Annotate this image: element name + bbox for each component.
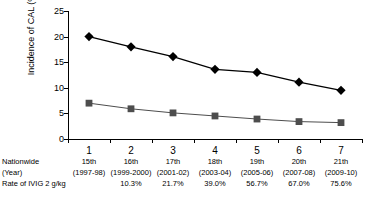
- annotation-cell-years: (2003-04): [199, 168, 232, 177]
- series-layer: [68, 11, 362, 139]
- annotation-row-label: Nationwide: [2, 157, 39, 166]
- data-point-diamond: [84, 32, 93, 41]
- annotation-cell-survey: 18th: [208, 157, 223, 166]
- y-tick-label: 0: [59, 134, 64, 144]
- annotation-cell-years: (2005-06): [241, 168, 274, 177]
- x-tick-mark: [68, 139, 69, 143]
- annotation-cell-ivig_rate: 39.0%: [204, 179, 225, 188]
- x-tick-mark: [194, 139, 195, 143]
- y-tick-label: 10: [54, 83, 64, 93]
- data-point-diamond: [126, 42, 135, 51]
- annotation-cell-survey: 19th: [250, 157, 265, 166]
- x-tick-mark: [362, 139, 363, 143]
- annotation-cell-years: (2001-02): [157, 168, 190, 177]
- data-point-diamond: [294, 78, 303, 87]
- annotation-cell-ivig_rate: 75.6%: [330, 179, 351, 188]
- x-tick-mark: [278, 139, 279, 143]
- data-point-square: [128, 105, 135, 112]
- data-point-square: [212, 113, 219, 120]
- x-tick-mark: [236, 139, 237, 143]
- annotation-cell-years: (1999-2000): [111, 168, 152, 177]
- y-tick-label: 15: [54, 57, 64, 67]
- data-point-square: [338, 119, 345, 126]
- annotation-cell-years: (2009-10): [325, 168, 358, 177]
- annotation-cell-survey: 16th: [124, 157, 139, 166]
- annotation-cell-survey: 21th: [334, 157, 349, 166]
- x-tick-mark: [110, 139, 111, 143]
- data-point-square: [170, 109, 177, 116]
- data-point-diamond: [336, 86, 345, 95]
- annotation-cell-survey: 17th: [166, 157, 181, 166]
- series-diamond: [84, 32, 345, 95]
- y-axis-title: Incidence of CAL (%): [26, 0, 36, 98]
- data-point-square: [296, 118, 303, 125]
- x-tick-mark: [152, 139, 153, 143]
- data-point-square: [254, 116, 261, 123]
- y-tick-label: 20: [54, 32, 64, 42]
- y-tick-label: 25: [54, 6, 64, 16]
- annotation-table: Nationwide(Year)Rate of IVIG 2 g/kg15th1…: [0, 155, 372, 199]
- data-point-diamond: [252, 68, 261, 77]
- x-axis-line: [68, 139, 362, 140]
- annotation-cell-survey: 20th: [292, 157, 307, 166]
- data-point-diamond: [168, 52, 177, 61]
- annotation-row-label: (Year): [2, 168, 22, 177]
- annotation-cell-years: (1997-98): [73, 168, 106, 177]
- annotation-cell-ivig_rate: 10.3%: [120, 179, 141, 188]
- annotation-cell-ivig_rate: 21.7%: [162, 179, 183, 188]
- annotation-cell-ivig_rate: 67.0%: [288, 179, 309, 188]
- data-point-square: [86, 100, 93, 107]
- annotation-cell-survey: 15th: [82, 157, 97, 166]
- y-tick-label: 5: [59, 108, 64, 118]
- annotation-cell-years: (2007-08): [283, 168, 316, 177]
- annotation-cell-ivig_rate: 56.7%: [246, 179, 267, 188]
- x-tick-mark: [320, 139, 321, 143]
- annotation-row-label: Rate of IVIG 2 g/kg: [2, 179, 66, 188]
- data-point-diamond: [210, 65, 219, 74]
- plot-area: 0510152025 1234567: [68, 11, 362, 139]
- chart-figure: Incidence of CAL (%) 0510152025 1234567 …: [0, 0, 372, 202]
- series-square: [86, 100, 345, 126]
